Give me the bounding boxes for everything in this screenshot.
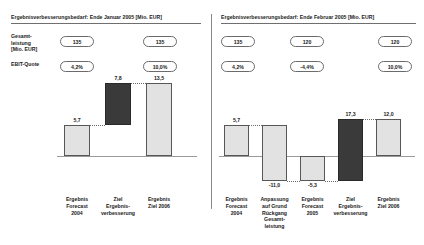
bar-january-1 [105,83,131,125]
bar-february-1 [262,125,287,181]
bar-february-2 [300,156,325,181]
panel-february: Ergebnisverbesserungsbedarf: Ende Februa… [211,0,424,245]
bar-value-january-0: 5,7 [54,117,100,123]
title-rule-february [221,23,416,24]
title-rule-january [11,23,201,24]
bar-value-february-4: 12,0 [366,111,411,117]
panel-title-february: Ergebnisverbesserungsbedarf: Ende Februa… [221,14,374,20]
badge-total-january-1: 135 [143,36,177,47]
bar-february-3 [338,119,363,181]
bar-value-february-2: -5,3 [290,182,335,188]
badge-total-february-1: 120 [290,36,324,47]
bar-february-0 [224,125,249,156]
connector-january-1 [131,83,146,84]
panel-title-january: Ergebnisverbesserungsbedarf: Ende Januar… [11,14,162,20]
connector-february-0 [249,125,262,126]
connector-january-0 [90,125,105,126]
bar-value-january-2: 13,5 [136,75,182,81]
connector-february-3 [363,119,376,120]
badge-ebit-february-0: 4,2% [221,61,255,72]
badge-total-january-0: 135 [60,36,94,47]
bar-value-february-0: 5,7 [214,117,259,123]
badge-ebit-january-1: 10,0% [143,61,177,72]
axis-baseline-january [57,156,197,157]
connector-february-1 [287,181,300,182]
badge-ebit-february-2: 10,0% [378,61,412,72]
row-label-ebit-quote: EBIT-Quote [11,61,39,68]
category-label-february-4: Ergebnis Ziel 2006 [365,196,412,210]
connector-february-2 [325,181,338,182]
bar-value-january-1: 7,8 [95,75,141,81]
badge-total-february-0: 135 [221,36,255,47]
panel-january: Ergebnisverbesserungsbedarf: Ende Januar… [0,0,211,245]
bar-february-4 [376,119,401,156]
bar-january-2 [146,83,172,156]
slide-canvas: Ergebnisverbesserungsbedarf: Ende Januar… [0,0,424,245]
row-label-gesamtleistung: Gesamt- leistung [Mio. EUR] [11,33,37,53]
bar-january-0 [64,125,90,156]
badge-ebit-february-1: -4,4% [290,61,324,72]
badge-total-february-2: 120 [378,36,412,47]
badge-ebit-january-0: 4,2% [60,61,94,72]
category-label-january-2: Ergebnis Ziel 2006 [134,196,184,210]
